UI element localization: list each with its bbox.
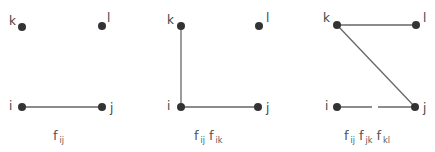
label-l: l <box>107 11 110 25</box>
label-k: k <box>9 14 16 28</box>
label-i: i <box>9 99 12 113</box>
node-l <box>98 22 106 30</box>
caption-3: fijfjkfkl <box>344 128 390 145</box>
graph-diagrams: k l i j fij k l i j fijfik k l i j fijfj… <box>0 0 435 152</box>
node-j <box>98 103 106 111</box>
node-k <box>333 21 341 29</box>
label-j: j <box>422 101 426 115</box>
label-l: l <box>423 11 426 25</box>
node-j <box>411 103 419 111</box>
caption-1: fij <box>53 128 64 145</box>
node-i <box>333 103 341 111</box>
diagram-1: k l i j fij <box>9 11 113 145</box>
node-l <box>255 22 263 30</box>
label-k: k <box>167 13 174 27</box>
node-l <box>412 21 420 29</box>
diagram-2: k l i j fijfik <box>167 11 269 145</box>
label-j: j <box>265 101 269 115</box>
label-i: i <box>167 99 170 113</box>
label-l: l <box>266 11 269 25</box>
node-i <box>18 103 26 111</box>
edge-jk <box>337 25 415 107</box>
node-i <box>177 103 185 111</box>
node-j <box>254 103 262 111</box>
label-j: j <box>109 101 113 115</box>
label-k: k <box>323 11 330 25</box>
node-k <box>177 22 185 30</box>
diagram-3: k l i j fijfjkfkl <box>323 11 426 145</box>
node-k <box>18 23 26 31</box>
caption-2: fijfik <box>194 128 223 145</box>
label-i: i <box>325 99 328 113</box>
